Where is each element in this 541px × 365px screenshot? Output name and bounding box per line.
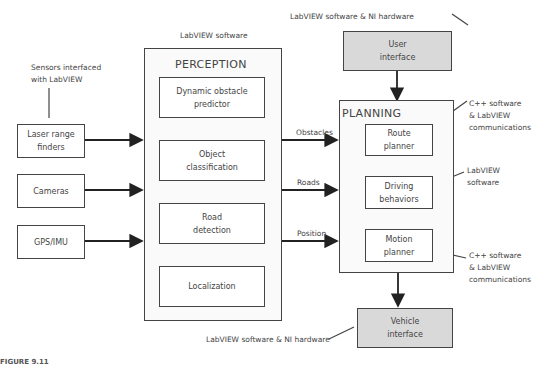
module-dynamic-obstacle-predictor: Dynamic obstacle predictor [159, 77, 265, 118]
module-road-detection: Road detection [159, 203, 265, 244]
sensor-laser-range-finders: Laser range finders [17, 124, 85, 158]
driving-software-note: LabVIEW software [467, 165, 500, 189]
route-comm-note: C++ software & LabVIEW communications [469, 98, 531, 134]
sensor-cameras: Cameras [17, 174, 85, 208]
module-localization: Localization [159, 266, 265, 307]
flow-label-position: Position [297, 229, 326, 238]
perception-software-note: LabVIEW software [180, 30, 248, 42]
ui-hardware-note: LabVIEW software & NI hardware [290, 11, 414, 23]
module-motion-planner: Motion planner [365, 229, 433, 262]
motion-comm-note: C++ software & LabVIEW communications [469, 250, 531, 286]
module-route-planner: Route planner [365, 124, 433, 156]
module-object-classification: Object classification [159, 140, 265, 181]
sensor-gps-imu: GPS/IMU [17, 225, 85, 259]
flow-label-roads: Roads [297, 178, 320, 187]
sensors-note: Sensors interfaced with LabVIEW [31, 62, 101, 86]
perception-title: PERCEPTION [175, 58, 247, 71]
vehicle-interface-box: Vehicle interface [357, 308, 453, 348]
flow-label-obstacles: Obstacles [296, 128, 333, 137]
planning-title: PLANNING [342, 107, 401, 120]
ui-hardware-leader [452, 14, 468, 25]
figure-caption: FIGURE 9.11 [0, 358, 49, 365]
vehicle-hardware-leader [329, 327, 354, 339]
module-driving-behaviors: Driving behaviors [365, 176, 433, 209]
user-interface-box: User interface [343, 31, 452, 71]
vehicle-hardware-note: LabVIEW software & NI hardware [206, 334, 330, 346]
